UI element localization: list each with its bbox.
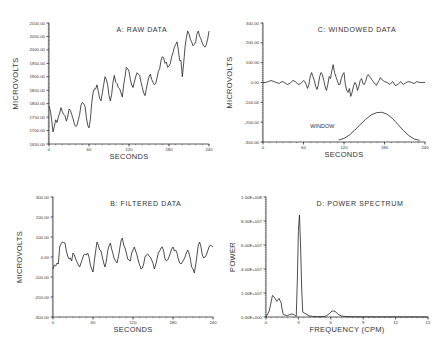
chart-title: A: RAW DATA <box>116 26 167 33</box>
x-tick-label: 60 <box>91 320 96 325</box>
y-tick-label: 200.00 <box>36 215 50 220</box>
x-tick-label: 0 <box>52 320 55 325</box>
y-tick-label: 100.00 <box>246 60 260 65</box>
chart-title: C: WINDOWED DATA <box>318 26 397 33</box>
x-axis-label: SECONDS <box>324 150 363 159</box>
y-tick-label: 6.00E+007 <box>241 243 263 248</box>
x-tick-label: 0 <box>265 320 268 325</box>
x-tick-label: 60 <box>301 145 306 150</box>
x-tick-label: 60 <box>87 147 92 152</box>
y-tick-label: 200.00 <box>246 40 260 45</box>
chart-panel-d: 0.00E+0002.00E+0074.00E+0076.00E+0078.00… <box>228 195 431 334</box>
y-tick-label: 0.00E+000 <box>241 315 263 320</box>
series-windowed <box>263 65 425 97</box>
y-tick-label: 300.00 <box>246 21 260 26</box>
chart-panel-a: 1650.001700.001750.001800.001850.001900.… <box>11 21 213 161</box>
x-tick-label: 240 <box>421 145 429 150</box>
x-tick-label: 15 <box>426 320 431 325</box>
y-tick-label: 1700.00 <box>29 128 45 133</box>
y-tick-label: -100.00 <box>244 100 259 105</box>
chart-figure: 1650.001700.001750.001800.001850.001900.… <box>0 0 446 346</box>
y-tick-label: 2.00E+007 <box>241 291 263 296</box>
x-axis-label: FREQUENCY (CPM) <box>309 325 384 334</box>
y-tick-label: 1.00E+008 <box>241 195 263 200</box>
y-tick-label: -300.00 <box>34 315 49 320</box>
y-tick-label: 1950.00 <box>29 61 45 66</box>
x-tick-label: 240 <box>209 320 217 325</box>
y-tick-label: 1650.00 <box>29 142 45 147</box>
y-tick-label: -300.00 <box>244 140 259 145</box>
y-axis-label: MICROVOLTS <box>15 231 24 283</box>
x-tick-label: 180 <box>169 320 177 325</box>
y-tick-label: 4.00E+007 <box>241 267 263 272</box>
annotation-label: WINDOW <box>310 123 335 129</box>
x-tick-label: 0 <box>48 147 51 152</box>
y-tick-label: 8.00E+007 <box>241 219 263 224</box>
y-tick-label: -100.00 <box>34 275 49 280</box>
y-tick-label: -200.00 <box>34 295 49 300</box>
x-tick-label: 3 <box>297 320 300 325</box>
y-tick-label: 1850.00 <box>29 88 45 93</box>
chart-panel-c: -300.00-200.00-100.000.00100.00200.00300… <box>225 21 429 159</box>
y-tick-label: 100.00 <box>36 235 50 240</box>
series-power <box>266 215 428 317</box>
x-tick-label: 0 <box>262 145 265 150</box>
y-tick-label: 2100.00 <box>29 21 45 26</box>
y-axis-label: MICROVOLTS <box>225 56 234 108</box>
y-tick-label: 0.00 <box>251 80 260 85</box>
x-axis-label: SECONDS <box>109 152 148 161</box>
x-tick-label: 240 <box>205 147 213 152</box>
y-tick-label: 0.00 <box>41 255 50 260</box>
y-tick-label: 2050.00 <box>29 34 45 39</box>
chart-title: D: POWER SPECTRUM <box>317 200 404 207</box>
series-window <box>339 112 420 140</box>
y-tick-label: 1800.00 <box>29 101 45 106</box>
x-tick-label: 12 <box>393 320 398 325</box>
chart-title: B: FILTERED DATA <box>110 200 181 207</box>
y-tick-label: -200.00 <box>244 120 259 125</box>
y-tick-label: 2000.00 <box>29 47 45 52</box>
x-axis-label: SECONDS <box>113 325 152 334</box>
chart-panel-b: -300.00-200.00-100.000.00100.00200.00300… <box>15 195 217 334</box>
series-filtered <box>53 238 213 273</box>
series-raw <box>49 31 209 132</box>
y-tick-label: 1750.00 <box>29 115 45 120</box>
y-tick-label: 300.00 <box>36 195 50 200</box>
y-tick-label: 1900.00 <box>29 74 45 79</box>
y-axis-label: MICROVOLTS <box>11 57 20 109</box>
x-tick-label: 180 <box>165 147 173 152</box>
x-tick-label: 180 <box>381 145 389 150</box>
y-axis-label: POWER <box>228 242 237 272</box>
